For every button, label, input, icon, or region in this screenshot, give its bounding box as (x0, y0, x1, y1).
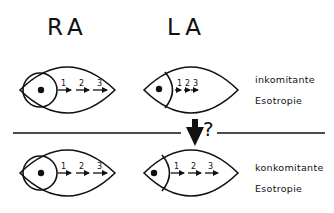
iris-icon (165, 72, 173, 108)
down-arrow-icon (186, 119, 204, 146)
eye-ra-bottom (20, 150, 115, 196)
step-number: 3 (97, 162, 102, 171)
gear-step-numbers: 1 2 3 1 2 3 1 2 3 1 2 3 (61, 79, 213, 171)
row2-label-line1: konkomitante (255, 163, 324, 173)
eye-la-top (144, 67, 238, 113)
pupil-icon (156, 86, 162, 92)
eye-ra-top (20, 67, 115, 113)
step-number: 2 (185, 79, 190, 88)
step-number: 3 (97, 79, 102, 88)
step-number: 1 (177, 79, 182, 88)
step-number: 3 (193, 79, 198, 88)
question-mark: ? (203, 119, 214, 139)
divider (13, 119, 325, 146)
pupil-icon (38, 170, 44, 176)
step-number: 2 (79, 79, 84, 88)
pupil-icon (151, 170, 157, 176)
row2-label-line2: Esotropie (255, 184, 302, 194)
step-number: 3 (208, 162, 213, 171)
step-number: 1 (61, 79, 66, 88)
pupil-icon (38, 87, 44, 93)
eye-la-bottom (144, 150, 238, 196)
eye-diagram: 1 2 3 1 2 3 1 2 3 1 2 3 (0, 0, 334, 213)
iris-icon (162, 155, 170, 191)
step-number: 1 (174, 162, 179, 171)
step-number: 2 (79, 162, 84, 171)
row1-label-line1: inkomitante (255, 75, 315, 85)
step-number: 1 (61, 162, 66, 171)
row1-label-line2: Esotropie (255, 96, 302, 106)
step-number: 2 (191, 162, 196, 171)
